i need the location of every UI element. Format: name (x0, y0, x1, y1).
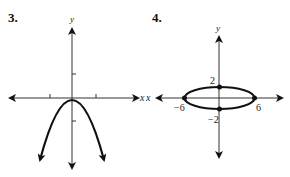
point-label-top: 2 (210, 75, 215, 86)
point-label-right: 6 (256, 102, 261, 113)
graph-3: x y (10, 14, 145, 168)
figures: x y 2 −2 −6 6 x y (0, 0, 290, 177)
y-axis-label: y (215, 23, 220, 33)
point-label-bottom: −2 (208, 114, 219, 125)
y-axis-label: y (69, 14, 74, 24)
point-label-left: −6 (174, 102, 185, 113)
x-axis-label: x (139, 92, 145, 103)
graph-4: 2 −2 −6 6 x y (145, 23, 282, 157)
x-axis-label: x (145, 92, 151, 103)
